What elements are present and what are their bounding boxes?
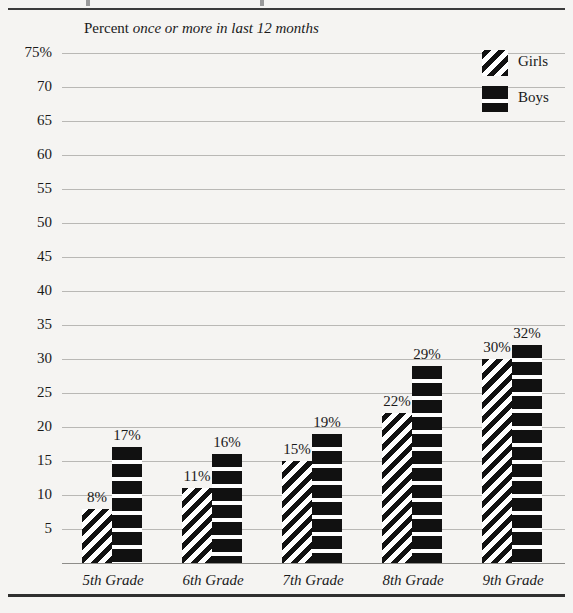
x-axis-label-6th-grade: 6th Grade	[163, 572, 263, 589]
y-axis-label-40: 40	[0, 283, 52, 298]
gridline-50	[62, 223, 565, 224]
bar-value-label-boys-8th-grade: 29%	[406, 346, 448, 363]
y-axis-label-60: 60	[0, 147, 52, 162]
subtitle-roman: Percent	[84, 20, 129, 36]
gridline-40	[62, 291, 565, 292]
bar-boys-9th-grade	[512, 345, 542, 563]
chart-legend: Girls Boys	[482, 48, 572, 120]
gridline-35	[62, 325, 565, 326]
legend-swatch-girls-icon	[482, 50, 508, 76]
y-axis-label-70: 70	[0, 79, 52, 94]
bar-value-label-boys-6th-grade: 16%	[206, 434, 248, 451]
y-axis-label-75: 75%	[0, 45, 52, 60]
x-axis-baseline	[62, 563, 565, 564]
subtitle-italic: once or more in last 12 months	[133, 20, 319, 36]
legend-item-girls: Girls	[482, 48, 572, 78]
y-axis-label-20: 20	[0, 419, 52, 434]
gridline-60	[62, 155, 565, 156]
legend-item-boys: Boys	[482, 84, 572, 114]
x-axis-label-7th-grade: 7th Grade	[263, 572, 363, 589]
bar-girls-9th-grade	[482, 359, 512, 563]
bar-boys-7th-grade	[312, 434, 342, 563]
bar-girls-5th-grade	[82, 509, 112, 563]
y-axis-label-5: 5	[0, 521, 52, 536]
y-axis-label-55: 55	[0, 181, 52, 196]
x-axis-label-8th-grade: 8th Grade	[363, 572, 463, 589]
bar-value-label-boys-9th-grade: 32%	[506, 325, 548, 342]
gridline-55	[62, 189, 565, 190]
gridline-65	[62, 121, 565, 122]
x-axis-label-5th-grade: 5th Grade	[63, 572, 163, 589]
y-axis-label-25: 25	[0, 385, 52, 400]
bar-boys-6th-grade	[212, 454, 242, 563]
bar-boys-8th-grade	[412, 366, 442, 563]
y-axis-label-35: 35	[0, 317, 52, 332]
bar-girls-6th-grade	[182, 488, 212, 563]
gridline-45	[62, 257, 565, 258]
bar-value-label-boys-7th-grade: 19%	[306, 414, 348, 431]
legend-swatch-boys-icon	[482, 86, 508, 112]
y-axis-label-30: 30	[0, 351, 52, 366]
x-axis-label-9th-grade: 9th Grade	[463, 572, 563, 589]
y-axis-label-45: 45	[0, 249, 52, 264]
bar-value-label-boys-5th-grade: 17%	[106, 427, 148, 444]
y-axis-label-65: 65	[0, 113, 52, 128]
y-axis-label-50: 50	[0, 215, 52, 230]
chart-subtitle: Percent once or more in last 12 months	[84, 20, 319, 37]
bar-boys-5th-grade	[112, 447, 142, 563]
y-axis-label-10: 10	[0, 487, 52, 502]
legend-label-girls: Girls	[518, 53, 548, 70]
bar-girls-7th-grade	[282, 461, 312, 563]
chart-plot-area: Percent once or more in last 12 months 7…	[0, 0, 573, 613]
bottom-rule	[8, 594, 565, 597]
bar-girls-8th-grade	[382, 413, 412, 563]
y-axis-label-15: 15	[0, 453, 52, 468]
legend-label-boys: Boys	[518, 89, 549, 106]
